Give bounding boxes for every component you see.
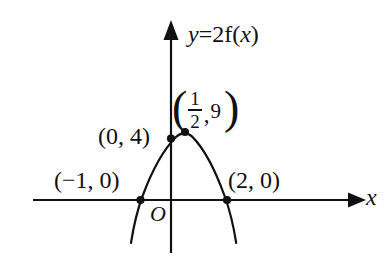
origin-label: O bbox=[150, 203, 166, 225]
y-intercept-label: (0, 4) bbox=[98, 124, 150, 148]
x-axis-label: x bbox=[366, 185, 377, 209]
vertex-close-paren: ) bbox=[224, 91, 239, 124]
right-root-label: (2, 0) bbox=[228, 168, 280, 192]
point-y-intercept bbox=[167, 134, 175, 142]
point-right-root bbox=[223, 196, 231, 204]
fraction-numerator: 1 bbox=[188, 89, 202, 108]
curve-label-coefficient: 2 bbox=[212, 21, 224, 47]
parabola-curve bbox=[131, 133, 236, 243]
fraction-denominator: 2 bbox=[188, 112, 202, 131]
curve-label-close-paren: ) bbox=[251, 21, 259, 47]
curve-label-function-name: f bbox=[224, 21, 232, 47]
y-axis-arrowhead bbox=[164, 20, 179, 40]
curve-label-open-paren: ( bbox=[232, 21, 240, 47]
curve-label-x: x bbox=[240, 21, 251, 47]
vertex-fraction-one-half: 1 2 bbox=[188, 89, 202, 131]
vertex-coordinate-label: ( 1 2 , 9 ) bbox=[172, 85, 239, 135]
vertex-y-value: 9 bbox=[211, 101, 222, 122]
curve-equation-label: y=2f(x) bbox=[188, 22, 259, 46]
point-left-root bbox=[136, 196, 144, 204]
vertex-open-paren: ( bbox=[172, 91, 187, 124]
curve-label-equals: = bbox=[199, 21, 213, 47]
parabola-figure: y=2f(x) ( 1 2 , 9 ) (0, 4) (−1, 0) (2, 0… bbox=[0, 0, 389, 270]
curve-label-y: y bbox=[188, 21, 199, 47]
x-axis-arrowhead bbox=[348, 193, 366, 208]
vertex-comma: , bbox=[204, 103, 210, 126]
left-root-label: (−1, 0) bbox=[54, 168, 120, 192]
